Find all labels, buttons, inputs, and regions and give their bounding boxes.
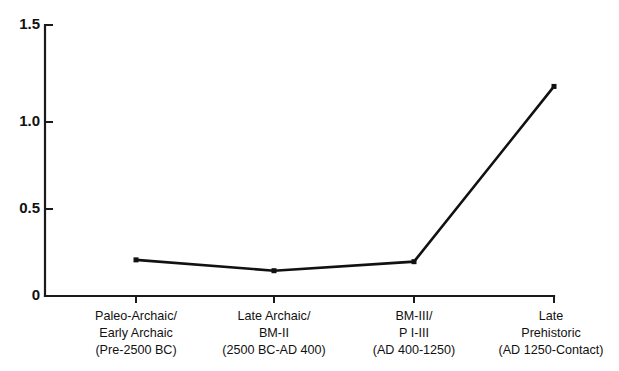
svg-text:BM-III/: BM-III/ — [395, 309, 433, 323]
data-point-marker — [552, 84, 557, 89]
y-tick-label-0: 0 — [32, 286, 40, 303]
data-point-marker — [412, 259, 417, 264]
svg-text:Prehistoric: Prehistoric — [521, 326, 581, 340]
svg-text:(Pre-2500 BC): (Pre-2500 BC) — [95, 343, 176, 357]
axes-group — [45, 25, 554, 296]
svg-text:(2500 BC-AD 400): (2500 BC-AD 400) — [222, 343, 326, 357]
line-chart: 1.5 1.0 0.5 0 Paleo-Archaic/ Early Archa… — [0, 0, 619, 371]
svg-text:P I-III: P I-III — [399, 326, 429, 340]
y-tick-labels: 1.5 1.0 0.5 0 — [19, 15, 40, 303]
svg-text:Paleo-Archaic/: Paleo-Archaic/ — [95, 309, 177, 323]
y-tick-group — [45, 25, 53, 296]
svg-text:Late: Late — [539, 309, 564, 323]
data-point-marker — [272, 268, 277, 273]
y-tick-label-0-5: 0.5 — [19, 199, 40, 216]
data-series-line — [136, 86, 554, 270]
svg-text:(AD 400-1250): (AD 400-1250) — [373, 343, 456, 357]
x-tick-label-2: BM-III/ P I-III (AD 400-1250) — [373, 309, 456, 357]
svg-text:BM-II: BM-II — [259, 326, 289, 340]
data-point-markers — [134, 84, 557, 273]
svg-text:Early Archaic: Early Archaic — [99, 326, 173, 340]
svg-text:(AD 1250-Contact): (AD 1250-Contact) — [499, 343, 604, 357]
data-point-marker — [134, 257, 139, 262]
x-tick-label-1: Late Archaic/ BM-II (2500 BC-AD 400) — [222, 309, 326, 357]
chart-canvas: 1.5 1.0 0.5 0 Paleo-Archaic/ Early Archa… — [0, 0, 619, 371]
y-tick-label-1-0: 1.0 — [19, 112, 40, 129]
x-tick-label-0: Paleo-Archaic/ Early Archaic (Pre-2500 B… — [95, 309, 177, 357]
x-tick-labels: Paleo-Archaic/ Early Archaic (Pre-2500 B… — [95, 309, 603, 357]
x-tick-label-3: Late Prehistoric (AD 1250-Contact) — [499, 309, 604, 357]
svg-text:Late Archaic/: Late Archaic/ — [238, 309, 311, 323]
y-tick-label-1-5: 1.5 — [19, 15, 40, 32]
